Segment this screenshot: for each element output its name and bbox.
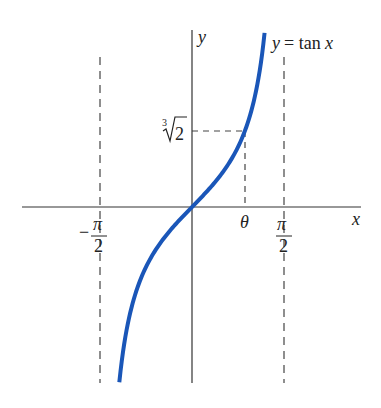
tick-label-neg-pi-over-2: − π 2 — [79, 214, 107, 256]
curve-label: y = tan x — [270, 33, 333, 53]
two-denominator: 2 — [94, 236, 103, 256]
tick-label-theta: θ — [240, 212, 249, 232]
two-denominator: 2 — [279, 236, 288, 256]
root-radicand: 2 — [175, 124, 184, 144]
minus-sign: − — [79, 222, 89, 242]
y-axis-label: y — [196, 27, 206, 47]
tick-label-cuberoot2: 3 2 — [162, 117, 187, 144]
tick-label-pi-over-2: π 2 — [276, 214, 292, 256]
pi-numerator: π — [93, 214, 103, 234]
curve-label-var: x — [324, 33, 333, 53]
x-axis-label: x — [351, 209, 360, 229]
curve-label-eq: = tan — [284, 33, 321, 53]
pi-numerator: π — [277, 214, 287, 234]
root-index: 3 — [162, 117, 167, 128]
tan-graph: y x y = tan x − π 2 θ π 2 3 2 — [0, 0, 381, 408]
curve-label-lhs: y — [270, 33, 280, 53]
